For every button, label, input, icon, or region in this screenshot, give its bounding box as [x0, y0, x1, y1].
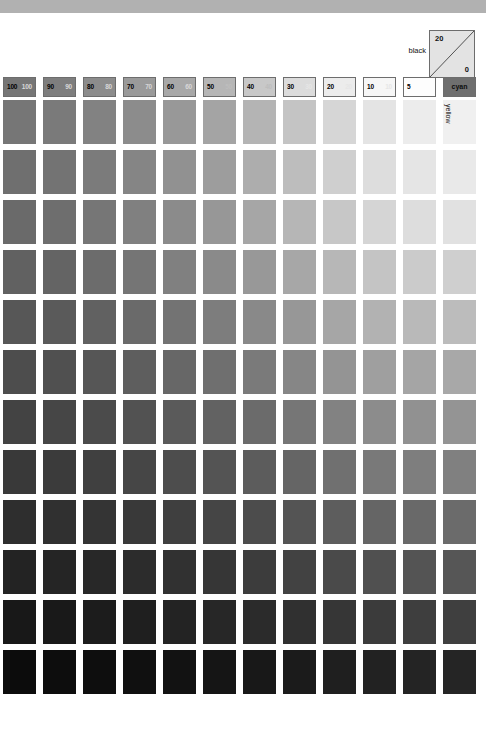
- patch-cell: [323, 150, 356, 194]
- column-header-label: 5: [407, 83, 410, 90]
- column-header-label: 90: [47, 83, 54, 90]
- patch-cell: [443, 400, 476, 444]
- patch-cell: [163, 350, 196, 394]
- column-header-label: 100: [7, 83, 17, 90]
- patch-cell: [203, 400, 236, 444]
- column-header-label: 20: [327, 83, 334, 90]
- patch-cell: [323, 650, 356, 694]
- column-header-secondary-label: 80: [105, 83, 112, 90]
- patch-cell: [283, 300, 316, 344]
- column-header-label: 40: [247, 83, 254, 90]
- patch-cell: [83, 650, 116, 694]
- column-header-50: 5050: [203, 77, 236, 97]
- black-corner-swatch: 20 0: [429, 30, 475, 78]
- column-header-secondary-label: 60: [185, 83, 192, 90]
- patch-cell: [403, 450, 436, 494]
- patch-cell: [323, 250, 356, 294]
- patch-cell: [203, 600, 236, 644]
- patch-cell: [3, 150, 36, 194]
- patch-cell: [283, 400, 316, 444]
- patch-cell: [243, 300, 276, 344]
- column-header-90: 9090: [43, 77, 76, 97]
- patch-cell: [3, 200, 36, 244]
- patch-cell: [403, 150, 436, 194]
- column-header-secondary-label: 40: [265, 83, 272, 90]
- patch-cell: [323, 200, 356, 244]
- patch-cell: [203, 450, 236, 494]
- patch-cell: [3, 450, 36, 494]
- column-header-cyan: cyan: [443, 77, 476, 97]
- patch-cell: [403, 550, 436, 594]
- patch-cell: [123, 600, 156, 644]
- column-header-40: 4040: [243, 77, 276, 97]
- patch-cell: [403, 650, 436, 694]
- column-header-label: 60: [167, 83, 174, 90]
- black-axis-label: black: [388, 46, 426, 55]
- black-corner-bottom-value: 0: [465, 65, 469, 74]
- patch-cell: [123, 100, 156, 144]
- patch-cell: [83, 200, 116, 244]
- patch-cell: [163, 250, 196, 294]
- column-header-secondary-label: 10: [385, 83, 392, 90]
- patch-cell: [243, 600, 276, 644]
- patch-cell: [83, 300, 116, 344]
- patch-cell: [363, 500, 396, 544]
- yellow-axis-label: yellow: [445, 104, 452, 123]
- patch-cell: [163, 300, 196, 344]
- column-header-10: 1010: [363, 77, 396, 97]
- column-header-secondary-label: 20: [345, 83, 352, 90]
- column-header-80: 8080: [83, 77, 116, 97]
- patch-cell: [203, 250, 236, 294]
- patch-cell: [123, 200, 156, 244]
- patch-cell: [243, 450, 276, 494]
- patch-cell: [3, 100, 36, 144]
- patch-cell: [363, 100, 396, 144]
- patch-cell: [43, 300, 76, 344]
- patch-cell: [443, 350, 476, 394]
- patch-cell: [443, 450, 476, 494]
- patch-cell: [323, 100, 356, 144]
- patch-cell: [203, 550, 236, 594]
- column-header-secondary-label: 70: [145, 83, 152, 90]
- patch-cell: [323, 300, 356, 344]
- patch-cell: [123, 450, 156, 494]
- patch-cell: [123, 400, 156, 444]
- patch-cell: [163, 550, 196, 594]
- patch-cell: [43, 550, 76, 594]
- patch-cell: [3, 550, 36, 594]
- column-header-60: 6060: [163, 77, 196, 97]
- patch-cell: [323, 400, 356, 444]
- patch-cell: [283, 500, 316, 544]
- patch-cell: [83, 150, 116, 194]
- patch-cell: [203, 650, 236, 694]
- patch-cell: [403, 200, 436, 244]
- column-header-30: 3030: [283, 77, 316, 97]
- column-header-20: 2020: [323, 77, 356, 97]
- patch-cell: [3, 650, 36, 694]
- patch-cell: [123, 250, 156, 294]
- patch-cell: [363, 450, 396, 494]
- patch-cell: [323, 500, 356, 544]
- patch-cell: [83, 550, 116, 594]
- patch-cell: [83, 500, 116, 544]
- patch-cell: [283, 650, 316, 694]
- patch-cell: [243, 250, 276, 294]
- patch-cell: [283, 550, 316, 594]
- patch-cell: [243, 650, 276, 694]
- patch-cell: [43, 150, 76, 194]
- patch-cell: [283, 150, 316, 194]
- column-header-5: 5: [403, 77, 436, 97]
- patch-cell: [43, 500, 76, 544]
- patch-cell: [443, 300, 476, 344]
- column-header-label: cyan: [444, 83, 475, 90]
- column-header-label: 10: [367, 83, 374, 90]
- patch-cell: [323, 550, 356, 594]
- patch-cell: [43, 450, 76, 494]
- patch-cell: [243, 550, 276, 594]
- patch-cell: [83, 100, 116, 144]
- column-header-100: 100100: [3, 77, 36, 97]
- patch-cell: [123, 500, 156, 544]
- patch-cell: [443, 650, 476, 694]
- patch-cell: [403, 500, 436, 544]
- patch-cell: [283, 100, 316, 144]
